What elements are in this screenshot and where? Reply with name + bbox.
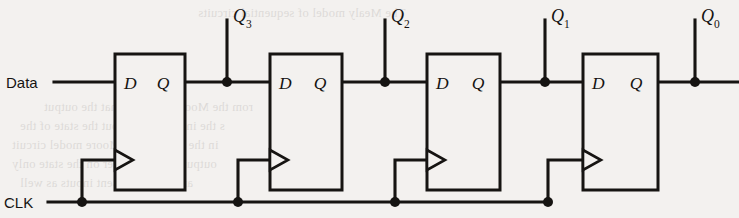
flipflop-ff2[interactable]: D Q xyxy=(270,54,342,190)
q0-base-label: Q xyxy=(701,6,714,26)
q3-base-label: Q xyxy=(233,6,246,26)
ff2-d-port-label: D xyxy=(278,73,292,93)
flipflop-ff3[interactable]: D Q xyxy=(115,54,185,190)
ff3-d-port-label: D xyxy=(123,73,137,93)
clock-input-label: CLK xyxy=(4,194,33,211)
junction-dot-q1 xyxy=(540,77,550,87)
junction-dot-clk-ff1 xyxy=(390,197,400,207)
output-label-q0: Q 0 xyxy=(701,6,720,30)
output-label-q1: Q 1 xyxy=(551,6,570,30)
q1-subscript-label: 1 xyxy=(564,18,570,30)
output-label-q3: Q 3 xyxy=(233,6,252,30)
ff2-q-port-label: Q xyxy=(314,73,327,93)
q1-base-label: Q xyxy=(551,6,564,26)
q0-subscript-label: 0 xyxy=(714,18,720,30)
shift-register-diagram: D Q D Q D Q D Q xyxy=(0,0,739,218)
flipflop-ff0[interactable]: D Q xyxy=(583,54,658,190)
junction-dot-q0 xyxy=(690,77,700,87)
q2-subscript-label: 2 xyxy=(404,18,410,30)
q3-subscript-label: 3 xyxy=(246,18,252,30)
wire-clock-riser-ff1 xyxy=(395,160,427,202)
ff1-d-port-label: D xyxy=(435,73,449,93)
output-label-q2: Q 2 xyxy=(391,6,410,30)
junction-dot-q2 xyxy=(380,77,390,87)
wire-clock-riser-ff0 xyxy=(548,160,583,202)
ff3-q-port-label: Q xyxy=(157,73,170,93)
junction-dot-clk-ff2 xyxy=(233,197,243,207)
junction-dot-clk-ff3 xyxy=(77,197,87,207)
wire-clock-riser-ff3 xyxy=(82,160,115,202)
scanned-figure: The Mealy model of sequential circuitsro… xyxy=(0,0,739,218)
junction-dot-q3 xyxy=(222,77,232,87)
wire-clock-riser-ff2 xyxy=(238,160,270,202)
data-input-label: Data xyxy=(6,74,38,91)
junction-dot-clk-ff0 xyxy=(543,197,553,207)
ff1-q-port-label: Q xyxy=(472,73,485,93)
q2-base-label: Q xyxy=(391,6,404,26)
ff0-d-port-label: D xyxy=(591,73,605,93)
flipflop-ff1[interactable]: D Q xyxy=(427,54,500,190)
ff0-q-port-label: Q xyxy=(630,73,643,93)
